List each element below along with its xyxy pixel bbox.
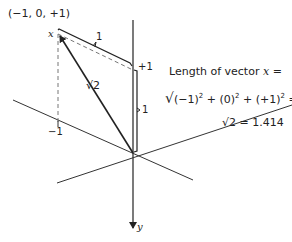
bracket-top-label: 1 — [96, 32, 102, 42]
bracket-top — [58, 29, 132, 66]
vector-x-label: x — [48, 29, 54, 39]
equation-line-1: Length of vector x = — [169, 66, 282, 77]
bracket-right-label: 1 — [142, 105, 148, 115]
bracket-right — [134, 70, 137, 152]
equation-line-2: √(−1)2 + (0)2 + (+1)2 = — [165, 91, 292, 105]
tick-plus1-label: +1 — [138, 62, 153, 72]
tick-minus1-label: −1 — [48, 127, 63, 137]
point-coordinate-label: (−1, 0, +1) — [8, 8, 70, 19]
vector-x-arrow — [60, 36, 133, 153]
equation-line-3: √2 = 1.414 — [222, 117, 284, 128]
y-axis-label: y — [137, 222, 143, 232]
diagonal-length-label: √2 — [86, 80, 100, 91]
vector-length-diagram: (−1, 0, +1) x 1 +1 1 √2 −1 y Length of v… — [0, 0, 292, 242]
